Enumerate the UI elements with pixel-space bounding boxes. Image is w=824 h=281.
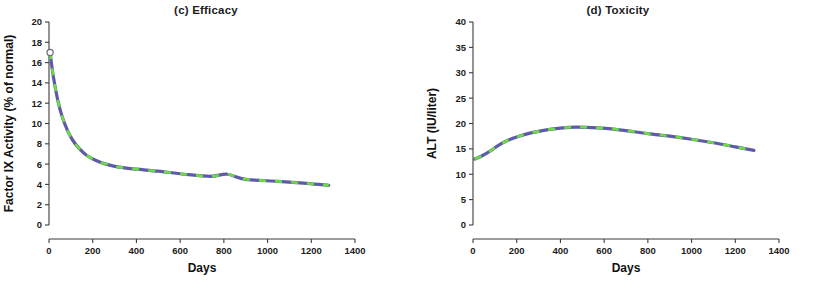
x-axis: 0200400600800100012001400 [46,239,365,256]
x-axis: 0200400600800100012001400 [470,239,789,256]
x-tick-label: 800 [216,245,232,256]
x-tick-label: 200 [85,245,101,256]
efficacy-plot: 0246810121416182002004006008001000120014… [0,0,412,281]
y-axis-title: ALT (IU/liter) [425,88,439,159]
x-tick-label: 1200 [301,245,322,256]
x-tick-label: 1000 [681,245,702,256]
y-tick-label: 2 [37,199,42,210]
y-tick-label: 25 [455,93,466,104]
x-tick-label: 400 [552,245,568,256]
x-tick-label: 600 [596,245,612,256]
y-tick-label: 20 [31,16,42,27]
fitted-curve [50,52,329,185]
x-tick-label: 400 [128,245,144,256]
y-tick-label: 8 [37,138,42,149]
y-tick-label: 35 [455,42,466,53]
y-axis: 02468101214161820 [31,16,49,230]
y-tick-label: 6 [37,159,42,170]
x-tick-label: 200 [509,245,525,256]
y-tick-label: 30 [455,67,466,78]
scatter-points [475,1,753,171]
fitted-curve [475,127,754,159]
x-tick-label: 1400 [768,245,789,256]
y-axis-title: Factor IX Activity (% of normal) [2,35,16,213]
y-tick-label: 4 [37,179,43,190]
y-tick-label: 15 [455,143,466,154]
y-tick-label: 0 [461,219,466,230]
x-axis-title: Days [612,261,641,275]
panel-toxicity: (d) Toxicity 051015202530354002004006008… [412,0,824,281]
y-tick-label: 12 [31,98,42,109]
x-tick-label: 1000 [257,245,278,256]
x-tick-label: 800 [640,245,656,256]
y-tick-label: 5 [461,194,467,205]
y-axis: 0510152025303540 [455,16,473,230]
toxicity-plot: 0510152025303540020040060080010001200140… [412,0,824,281]
y-tick-label: 0 [37,219,42,230]
x-axis-title: Days [188,261,217,275]
y-tick-label: 14 [31,77,42,88]
x-tick-label: 0 [470,245,475,256]
figure-container: (c) Efficacy 024681012141618200200400600… [0,0,824,281]
x-tick-label: 0 [46,245,51,256]
y-tick-label: 10 [31,118,42,129]
scatter-points [50,1,327,191]
y-tick-label: 18 [31,37,42,48]
x-tick-label: 600 [172,245,188,256]
curve-start-marker [47,49,53,55]
panel-efficacy: (c) Efficacy 024681012141618200200400600… [0,0,412,281]
x-tick-label: 1200 [725,245,746,256]
x-tick-label: 1400 [344,245,365,256]
y-tick-label: 16 [31,57,42,68]
y-tick-label: 40 [455,16,466,27]
y-tick-label: 20 [455,118,466,129]
y-tick-label: 10 [455,169,466,180]
